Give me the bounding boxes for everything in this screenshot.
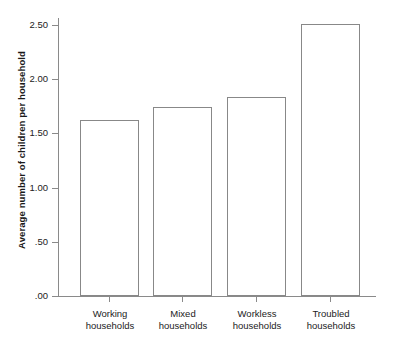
y-tick-mark-4: [52, 79, 58, 80]
bar-working-households: [80, 120, 139, 296]
y-axis-line: [58, 18, 59, 297]
y-tick-label-2: 1.00: [14, 183, 48, 193]
y-tick-mark-2: [52, 188, 58, 189]
x-tick-mark-0: [109, 296, 110, 302]
x-tick-mark-1: [182, 296, 183, 302]
x-tick-label-line-1: Troubled: [285, 308, 377, 320]
bar-mixed-households: [153, 107, 212, 296]
bar-troubled-households: [301, 24, 360, 296]
y-tick-label-1: .50: [14, 237, 48, 247]
y-tick-mark-5: [52, 25, 58, 26]
x-tick-label-troubled-households: Troubled households: [285, 308, 377, 332]
x-tick-label-line-2: households: [285, 320, 377, 332]
y-tick-mark-0: [52, 296, 58, 297]
bar-chart: Average number of children per household…: [0, 0, 399, 346]
x-tick-mark-3: [330, 296, 331, 302]
x-axis-line: [58, 296, 376, 297]
y-tick-mark-3: [52, 133, 58, 134]
y-tick-label-0: .00: [14, 291, 48, 301]
x-tick-mark-2: [256, 296, 257, 302]
y-tick-mark-1: [52, 242, 58, 243]
y-tick-label-5: 2.50: [14, 20, 48, 30]
y-axis-title: Average number of children per household: [14, 0, 30, 300]
y-tick-label-3: 1.50: [14, 128, 48, 138]
y-tick-label-4: 2.00: [14, 74, 48, 84]
bar-workless-households: [227, 97, 286, 296]
